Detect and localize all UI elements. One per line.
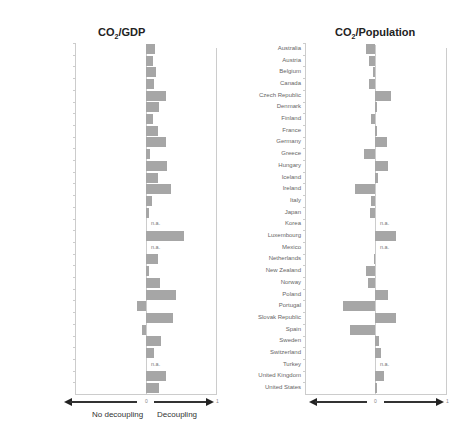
bar [375, 313, 396, 323]
category-label: Sweden [279, 337, 301, 343]
category-label: Japan [285, 209, 301, 215]
category-label: Spain [286, 326, 301, 332]
y-axis-tick [303, 66, 306, 67]
y-axis-tick [303, 359, 306, 360]
caption-decoupling: Decoupling [157, 410, 197, 419]
bar [375, 173, 378, 183]
bar [375, 336, 379, 346]
y-axis-tick [303, 382, 306, 383]
y-axis-tick [73, 289, 76, 290]
category-label: France [282, 127, 301, 133]
axis-tick-zero: 0 [145, 398, 148, 404]
y-axis-tick [73, 148, 76, 149]
category-label: Portugal [279, 302, 301, 308]
category-label: Austria [282, 57, 301, 63]
y-axis-tick [73, 277, 76, 278]
bar [146, 208, 149, 218]
bar [146, 91, 166, 101]
bar [146, 313, 173, 323]
y-axis-tick [73, 324, 76, 325]
bar [146, 161, 167, 171]
bar [142, 325, 146, 335]
bar [146, 79, 154, 89]
bar [375, 161, 388, 171]
bar [375, 383, 377, 393]
bar [375, 231, 396, 241]
y-axis-tick [303, 195, 306, 196]
y-axis-tick [303, 219, 306, 220]
y-axis-tick [73, 66, 76, 67]
chart-title-co2-population: CO2/Population [335, 26, 415, 40]
arrow-right-line [154, 401, 208, 403]
arrow-right-icon [436, 398, 444, 406]
y-axis-tick [303, 43, 306, 44]
bar [375, 91, 391, 101]
bar [146, 137, 166, 147]
y-axis-tick [73, 195, 76, 196]
bar [343, 301, 375, 311]
bar [137, 301, 146, 311]
y-axis-tick [73, 137, 76, 138]
y-axis-tick [303, 324, 306, 325]
bar [146, 383, 159, 393]
category-label: Hungary [278, 162, 301, 168]
y-axis-tick [73, 347, 76, 348]
y-axis-tick [303, 347, 306, 348]
y-axis-tick [73, 219, 76, 220]
bar [146, 231, 184, 241]
y-axis-tick [303, 254, 306, 255]
y-axis-tick [303, 137, 306, 138]
y-axis-tick [73, 242, 76, 243]
y-axis-tick [73, 183, 76, 184]
bar [146, 196, 152, 206]
y-axis-tick [303, 230, 306, 231]
category-label: Turkey [283, 361, 301, 367]
bar [375, 102, 377, 112]
y-axis-tick [303, 265, 306, 266]
category-label: Switzerland [270, 349, 301, 355]
x-axis-line [75, 394, 217, 395]
na-label: n.a. [151, 361, 160, 367]
category-label: Slovak Republic [258, 314, 301, 320]
y-axis-tick [73, 254, 76, 255]
axis-tick-one: 1 [216, 398, 219, 404]
y-axis-tick [73, 172, 76, 173]
category-label: Finland [281, 115, 301, 121]
y-axis-tick [303, 125, 306, 126]
bar [146, 348, 154, 358]
caption-no-decoupling: No decoupling [92, 410, 143, 419]
category-label: United Kingdom [258, 372, 301, 378]
bar [364, 149, 375, 159]
y-axis-tick [73, 55, 76, 56]
bar [375, 348, 381, 358]
category-label: New Zealand [266, 267, 301, 273]
y-axis-tick [303, 172, 306, 173]
category-label: Mexico [282, 244, 301, 250]
bar [368, 278, 375, 288]
category-label: Iceland [282, 174, 301, 180]
y-axis-tick [73, 160, 76, 161]
category-label: Italy [290, 197, 301, 203]
y-axis-tick [303, 160, 306, 161]
bar [146, 336, 161, 346]
bar [146, 44, 155, 54]
bar [371, 196, 375, 206]
y-axis-tick [303, 78, 306, 79]
na-label: n.a. [151, 220, 160, 226]
bar [146, 266, 149, 276]
bar [369, 56, 375, 66]
arrow-left-line [315, 401, 367, 403]
bar [146, 102, 159, 112]
y-axis-tick [73, 382, 76, 383]
na-label: n.a. [380, 244, 389, 250]
y-axis-tick [303, 183, 306, 184]
y-axis-tick [303, 312, 306, 313]
bar [146, 149, 150, 159]
category-label: Germany [276, 138, 301, 144]
y-axis-tick [303, 277, 306, 278]
y-axis-tick [73, 102, 76, 103]
y-axis-tick [73, 336, 76, 337]
bar [350, 325, 375, 335]
category-label: Ireland [283, 185, 301, 191]
axis-tick-one: 1 [446, 398, 449, 404]
